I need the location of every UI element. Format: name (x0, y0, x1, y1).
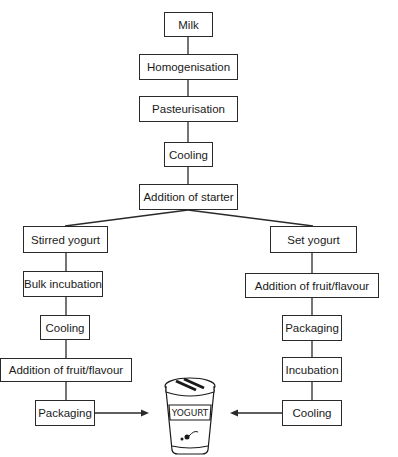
step-cooling: Cooling (164, 142, 213, 167)
step-milk: Milk (164, 12, 213, 37)
stirred-step-bulk-incubation: Bulk incubation (23, 271, 103, 297)
step-addition-of-starter: Addition of starter (139, 184, 238, 210)
set-step-cooling: Cooling (282, 400, 342, 426)
set-step-packaging: Packaging (282, 315, 342, 341)
arrow-left-icon (230, 410, 238, 417)
branch-set-yogurt: Set yogurt (270, 226, 357, 253)
step-homogenisation: Homogenisation (139, 54, 238, 80)
branch-stirred-yogurt: Stirred yogurt (23, 226, 108, 253)
yogurt-cup-icon: YOGURT (160, 372, 220, 457)
svg-text:YOGURT: YOGURT (171, 408, 209, 418)
arrow-right-icon (141, 410, 149, 417)
set-step-addition-of-fruit-flavour: Addition of fruit/flavour (245, 273, 379, 298)
stirred-step-packaging: Packaging (35, 400, 95, 426)
set-step-incubation: Incubation (282, 357, 342, 382)
stirred-step-cooling: Cooling (40, 315, 90, 340)
step-pasteurisation: Pasteurisation (139, 96, 238, 122)
stirred-step-addition-of-fruit-flavour: Addition of fruit/flavour (0, 358, 132, 382)
